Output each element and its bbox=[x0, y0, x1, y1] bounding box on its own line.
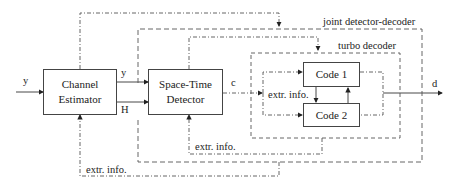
code1-label: Code 1 bbox=[316, 67, 347, 82]
extr-estimator-label: extr. info. bbox=[86, 164, 127, 176]
detector-line2: Detector bbox=[167, 92, 205, 107]
channel-estimator-block: Channel Estimator bbox=[43, 69, 117, 115]
channel-estimator-line1: Channel bbox=[62, 77, 99, 92]
extr-inner-label: extr. info. bbox=[268, 89, 309, 101]
y-out-label: y bbox=[121, 67, 126, 79]
detector-line1: Space-Time bbox=[159, 77, 212, 92]
code1-block: Code 1 bbox=[303, 62, 360, 87]
input-y-label: y bbox=[23, 75, 28, 87]
joint-group-label: joint detector-decoder bbox=[323, 16, 415, 28]
H-out-label: H bbox=[121, 104, 129, 116]
extr-detector-label: extr. info. bbox=[195, 141, 236, 153]
space-time-detector-block: Space-Time Detector bbox=[148, 69, 223, 115]
code2-block: Code 2 bbox=[303, 103, 360, 127]
turbo-group-label: turbo decoder bbox=[338, 40, 396, 52]
c-label: c bbox=[231, 77, 236, 89]
code2-label: Code 2 bbox=[316, 108, 347, 123]
diagram: Channel Estimator Space-Time Detector Co… bbox=[0, 0, 460, 186]
d-label: d bbox=[432, 78, 437, 90]
channel-estimator-line2: Estimator bbox=[59, 92, 102, 107]
